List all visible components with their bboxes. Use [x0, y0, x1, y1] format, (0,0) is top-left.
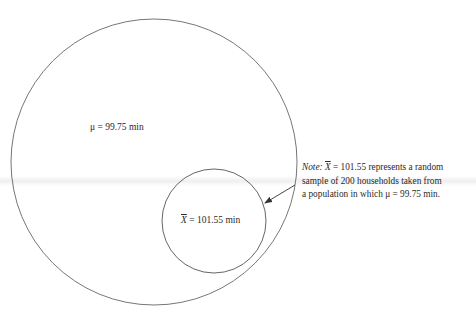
note-line-3: a population in which μ = 99.75 min.	[302, 188, 443, 202]
population-circle	[11, 19, 297, 305]
sample-mean-label: X = 101.55 min	[181, 216, 240, 226]
note-line-1: Note: X = 101.55 represents a random	[302, 161, 443, 175]
diagram-canvas	[0, 0, 476, 318]
note-arrow	[265, 185, 295, 203]
note-line-2: sample of 200 households taken from	[302, 175, 443, 189]
note-annotation: Note: X = 101.55 represents a random sam…	[302, 161, 443, 202]
note-lead: Note:	[302, 162, 323, 172]
population-mean-label: μ = 99.75 min	[90, 123, 144, 133]
